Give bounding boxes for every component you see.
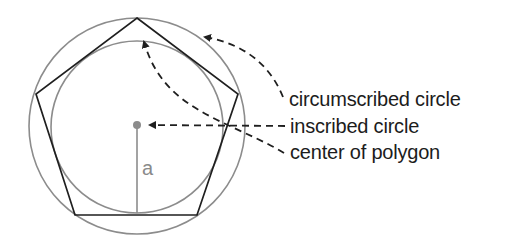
label-inscribed-circle: inscribed circle	[290, 116, 419, 136]
polygon-diagram	[0, 0, 521, 247]
label-circumscribed-circle: circumscribed circle	[289, 89, 461, 109]
label-center-of-polygon: center of polygon	[290, 142, 440, 162]
circumscribed-arrow	[205, 37, 283, 97]
center-arrow	[144, 42, 284, 153]
center-dot	[133, 121, 141, 129]
label-apothem: a	[142, 158, 153, 178]
inscribed-arrow	[150, 125, 285, 126]
